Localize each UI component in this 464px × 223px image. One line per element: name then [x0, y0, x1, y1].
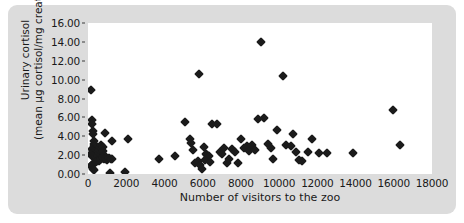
x-tick-label: 6000: [190, 177, 216, 189]
data-point: [123, 134, 133, 144]
data-point: [396, 140, 406, 150]
x-tick-label: 12000: [301, 177, 333, 189]
scatter-plot-area: [88, 23, 432, 174]
data-point: [154, 154, 164, 164]
y-tick-label: 12.00: [51, 55, 80, 67]
data-point: [188, 145, 198, 155]
y-tick-label: 16.00: [51, 17, 80, 29]
data-point: [100, 128, 110, 138]
data-point: [170, 151, 180, 161]
x-axis-tick-labels: 0200040006000800010000120001400016000180…: [88, 175, 432, 191]
data-point: [307, 134, 317, 144]
data-point: [278, 71, 288, 81]
data-point: [303, 147, 313, 157]
data-point: [90, 165, 100, 174]
data-point: [268, 154, 278, 164]
data-point: [233, 158, 243, 168]
x-tick-label: 18000: [416, 177, 448, 189]
data-point: [205, 157, 215, 167]
data-point: [105, 168, 115, 174]
y-tick-mark: [82, 79, 85, 80]
data-point: [250, 145, 260, 155]
y-tick-label: 10.00: [51, 74, 80, 86]
y-tick-label: 2.00: [57, 149, 80, 161]
chart-panel: Urinary cortisol (mean µg cortisol/mg cr…: [8, 5, 456, 214]
x-axis-title: Number of visitors to the zoo: [88, 191, 432, 204]
data-point: [322, 148, 332, 158]
y-tick-mark: [82, 136, 85, 137]
x-tick-label: 0: [85, 177, 91, 189]
y-tick-mark: [82, 98, 85, 99]
y-axis-title-line-1: Urinary cortisol: [19, 0, 32, 140]
data-point: [108, 136, 118, 146]
y-tick-label: 8.00: [57, 93, 80, 105]
y-axis-tick-labels: 0.002.004.006.008.0010.0012.0014.0016.00: [42, 15, 86, 190]
data-point: [348, 148, 358, 158]
data-point: [212, 120, 222, 130]
data-point: [194, 69, 204, 79]
data-point: [180, 117, 190, 127]
y-tick-label: 4.00: [57, 130, 80, 142]
x-tick-label: 14000: [339, 177, 371, 189]
x-tick-label: 8000: [228, 177, 254, 189]
y-tick-label: 6.00: [57, 111, 80, 123]
data-point: [120, 167, 130, 174]
data-point: [88, 85, 96, 95]
y-tick-mark: [82, 60, 85, 61]
x-tick-label: 10000: [263, 177, 295, 189]
y-tick-mark: [82, 23, 85, 24]
data-point: [288, 129, 298, 139]
y-tick-mark: [82, 41, 85, 42]
y-tick-mark: [82, 117, 85, 118]
y-tick-label: 14.00: [51, 36, 80, 48]
x-tick-label: 4000: [151, 177, 177, 189]
x-tick-label: 2000: [113, 177, 139, 189]
y-tick-label: 0.00: [57, 168, 80, 180]
data-point: [388, 105, 398, 115]
y-tick-mark: [82, 155, 85, 156]
x-tick-label: 16000: [378, 177, 410, 189]
y-tick-mark: [82, 174, 85, 175]
data-point: [256, 37, 266, 47]
data-point: [272, 125, 282, 135]
